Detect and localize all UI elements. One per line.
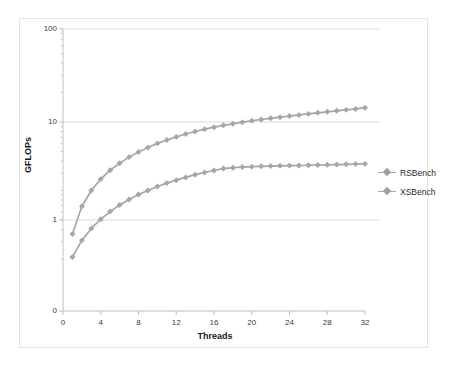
legend-item[interactable]: RSBench	[378, 163, 436, 182]
x-tick-label: 8	[127, 318, 151, 327]
data-point	[343, 161, 349, 167]
data-point	[192, 172, 198, 178]
data-point	[353, 161, 359, 167]
data-point	[287, 163, 293, 169]
data-point	[173, 134, 179, 140]
data-point	[192, 129, 198, 135]
x-tick-label: 4	[89, 318, 113, 327]
data-point	[362, 105, 368, 111]
x-axis-title: Threads	[140, 331, 290, 341]
data-point	[315, 110, 321, 116]
data-point	[164, 180, 170, 186]
x-tick-label: 32	[353, 318, 377, 327]
series-line-xsbench	[72, 164, 365, 257]
data-point	[220, 166, 226, 172]
data-point	[230, 165, 236, 171]
legend-label: RSBench	[400, 168, 436, 178]
data-point	[164, 137, 170, 143]
x-tick-label: 28	[315, 318, 339, 327]
data-point	[305, 162, 311, 168]
x-tick-label: 12	[164, 318, 188, 327]
data-point	[136, 192, 142, 198]
data-point	[211, 168, 217, 174]
data-point	[183, 131, 189, 137]
data-point	[296, 163, 302, 169]
data-point	[239, 119, 245, 125]
y-tick-label: 100	[21, 24, 57, 33]
chart-legend: RSBenchXSBench	[378, 163, 436, 201]
data-point	[315, 162, 321, 168]
data-point	[334, 162, 340, 168]
x-tick-label: 16	[202, 318, 226, 327]
y-tick-label: 1	[21, 215, 57, 224]
data-point	[258, 163, 264, 169]
legend-marker-diamond-icon	[378, 168, 396, 178]
data-point	[305, 111, 311, 117]
data-point	[249, 118, 255, 124]
data-point	[145, 144, 151, 150]
data-point	[183, 174, 189, 180]
x-tick-label: 0	[51, 318, 75, 327]
y-tick-label: 0	[21, 306, 57, 315]
data-point	[249, 164, 255, 170]
x-tick-label: 20	[240, 318, 264, 327]
data-point	[69, 231, 75, 237]
data-point	[202, 126, 208, 132]
data-point	[287, 113, 293, 119]
data-point	[334, 108, 340, 114]
x-tick-label: 24	[278, 318, 302, 327]
data-point	[239, 164, 245, 170]
legend-marker-diamond-icon	[378, 187, 396, 197]
data-point	[296, 112, 302, 118]
data-point	[154, 140, 160, 146]
data-point	[277, 114, 283, 120]
data-point	[353, 106, 359, 112]
data-point	[324, 162, 330, 168]
data-point	[324, 109, 330, 115]
data-point	[145, 188, 151, 194]
data-point	[362, 161, 368, 167]
data-point	[154, 183, 160, 189]
series-layer	[69, 105, 367, 260]
series-line-rsbench	[72, 108, 365, 234]
data-point	[343, 107, 349, 113]
y-axis-title: GFLOPs	[23, 125, 33, 185]
data-point	[173, 177, 179, 183]
data-point	[202, 170, 208, 176]
legend-item[interactable]: XSBench	[378, 182, 436, 201]
data-point	[220, 122, 226, 128]
data-point	[268, 163, 274, 169]
data-point	[268, 115, 274, 121]
data-point	[211, 124, 217, 130]
data-point	[277, 163, 283, 169]
legend-label: XSBench	[400, 187, 435, 197]
